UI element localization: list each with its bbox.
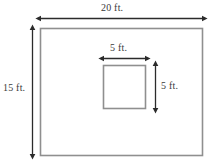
inner-height-label: 5 ft.: [161, 81, 178, 91]
geometry-figure: 20 ft. 15 ft. 5 ft. 5 ft.: [0, 0, 210, 162]
inner-square-shape: [104, 66, 146, 109]
outer-width-label: 20 ft.: [101, 3, 123, 13]
inner-width-label: 5 ft.: [110, 43, 127, 53]
figure-canvas: [0, 0, 210, 162]
outer-height-label: 15 ft.: [3, 83, 25, 93]
